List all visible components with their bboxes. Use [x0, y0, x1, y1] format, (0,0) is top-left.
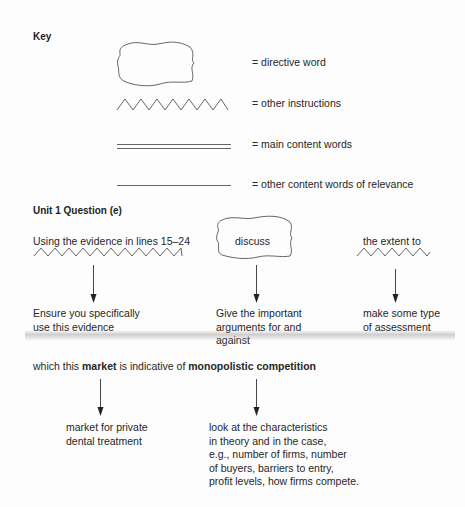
note-line: look at the characteristics: [209, 421, 359, 435]
note-monopolistic-competition: look at the characteristics in theory an…: [209, 421, 359, 489]
note-line: e.g., number of firms, number: [209, 448, 359, 462]
note-line: market for private: [66, 421, 148, 435]
note-market: market for private dental treatment: [66, 421, 148, 448]
note-line: in theory and in the case,: [209, 435, 359, 449]
note-line: profit levels, how firms compete.: [209, 475, 359, 489]
note-line: of buyers, barriers to entry,: [209, 462, 359, 476]
note-line: dental treatment: [66, 435, 148, 449]
